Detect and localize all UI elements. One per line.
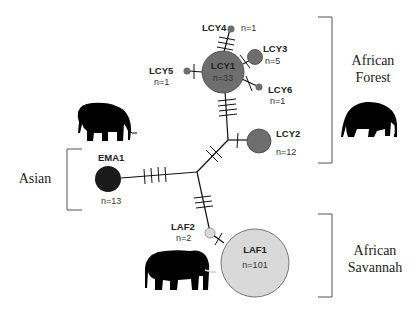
node-lcy4: [228, 26, 235, 33]
region-asian: Asian: [19, 171, 52, 186]
label-lcy1: LCY1: [211, 60, 236, 71]
label-laf2: LAF2: [171, 221, 195, 232]
node-lcy3: [248, 50, 263, 65]
node-lcy6: [256, 84, 263, 91]
label-lcy5: LCY5: [149, 65, 174, 76]
bracket-forest: [318, 17, 332, 163]
count-lcy3: n=5: [265, 56, 280, 66]
region-savannah-line1: African: [354, 243, 397, 258]
forest-elephant-icon: [341, 102, 397, 137]
label-lcy2: LCY2: [276, 128, 300, 139]
node-lcy5: [184, 68, 191, 75]
node-ema1: [95, 166, 121, 192]
count-lcy5: n=1: [154, 77, 169, 87]
haplotype-network-diagram: LCY4 n=1 LCY3 n=5 LCY5 n=1 LCY1 n=33 LCY…: [0, 0, 416, 309]
node-laf2: [205, 228, 215, 238]
label-ema1: EMA1: [98, 152, 125, 163]
asian-elephant-icon: [78, 103, 137, 141]
count-lcy1: n=33: [213, 73, 233, 83]
node-lcy2: [247, 129, 271, 153]
count-lcy6: n=1: [270, 96, 285, 106]
bracket-asian: [67, 149, 82, 210]
count-lcy4: n=1: [241, 23, 256, 33]
count-ema1: n=13: [101, 196, 121, 206]
label-lcy4: LCY4: [202, 22, 227, 33]
node-lcy1: [202, 51, 244, 93]
bracket-savannah: [318, 214, 332, 297]
label-laf1: LAF1: [243, 244, 267, 255]
region-forest-line1: African: [352, 53, 395, 68]
count-laf1: n=101: [242, 260, 267, 270]
savannah-elephant-icon: [145, 250, 216, 290]
region-forest-line2: Forest: [356, 70, 391, 85]
region-savannah-line2: Savannah: [348, 260, 402, 275]
count-laf2: n=2: [176, 233, 191, 243]
count-lcy2: n=12: [276, 147, 296, 157]
label-lcy3: LCY3: [263, 43, 287, 54]
label-lcy6: LCY6: [268, 84, 292, 95]
